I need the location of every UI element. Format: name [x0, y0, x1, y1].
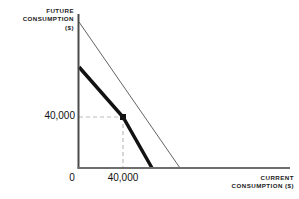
x-axis-title: CURRENT CONSUMPTION ($) — [190, 174, 294, 191]
endowment-point-marker — [120, 114, 126, 120]
market-budget-line — [79, 22, 180, 168]
x-axis-tick-label-0: 0 — [63, 172, 81, 183]
x-axis-tick-label-40000: 40,000 — [96, 172, 150, 183]
y-axis-title: FUTURE CONSUMPTION ($) — [8, 7, 74, 32]
y-axis-tick-label-40000: 40,000 — [22, 110, 75, 121]
chart-figure: FUTURE CONSUMPTION ($) CURRENT CONSUMPTI… — [0, 0, 299, 199]
